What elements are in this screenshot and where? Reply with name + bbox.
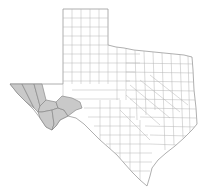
texas-county-map [0, 0, 209, 192]
county-presidio [38, 110, 54, 130]
